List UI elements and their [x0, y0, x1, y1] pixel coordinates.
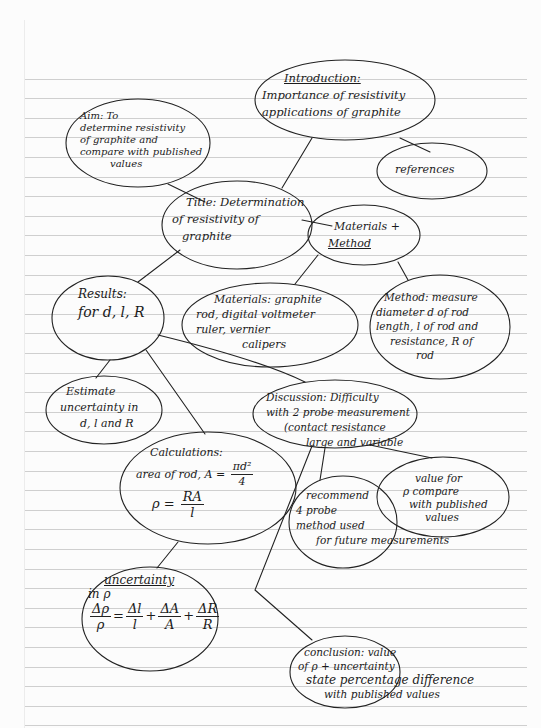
rho-formula: ρ = RA l	[136, 489, 296, 520]
term2-denominator: A	[158, 617, 181, 632]
discussion-line-3: (contact resistance	[266, 420, 436, 435]
conclusion-line-3: state percentage difference	[298, 673, 528, 687]
aim-node: Aim: To determine resistivity of graphit…	[80, 110, 205, 170]
title-line-1: Title: Determination	[172, 194, 307, 211]
conclusion-node: conclusion: value of ρ + uncertainty sta…	[298, 645, 528, 701]
term1-numerator: Δl	[126, 601, 144, 617]
method-node: Method: measure diameter d of rod length…	[376, 290, 506, 363]
area-numerator: πd²	[231, 460, 254, 475]
value-compare-node: value for ρ compare with published value…	[403, 472, 488, 524]
introduction-heading: Introduction:	[262, 70, 432, 87]
link-mm-method	[398, 262, 408, 280]
estimate-uncertainty-node: Estimate uncertainty in d, l and R	[60, 384, 138, 432]
materials-line-3: ruler, vernier	[196, 322, 346, 337]
recommend-line-4: for future measurements	[296, 533, 449, 548]
title-node: Title: Determination of resistivity of g…	[172, 194, 307, 245]
conclusion-line-1: conclusion: value	[298, 645, 528, 659]
link-results-calculations	[146, 350, 205, 434]
link-intro-references	[400, 138, 430, 152]
materials-method-line-1: Materials +	[328, 218, 400, 235]
discussion-line-1: Discussion: Difficulty	[266, 390, 436, 405]
method-line-1: Method: measure	[376, 290, 506, 305]
link-calc-uncertainty	[157, 542, 178, 568]
results-line-2: for d, l, R	[78, 303, 145, 321]
title-line-2: of resistivity of	[172, 211, 307, 228]
link-discussion-recommend	[320, 448, 325, 480]
rho-label: ρ =	[152, 496, 175, 511]
equals-sign: =	[113, 608, 124, 623]
area-formula: area of rod, A = πd² 4	[136, 460, 296, 489]
plus-sign-2: +	[183, 608, 194, 623]
discussion-node: Discussion: Difficulty with 2 probe meas…	[266, 390, 436, 450]
term3-fraction: ΔR R	[196, 601, 219, 632]
rho-denominator: l	[181, 505, 204, 520]
rho-numerator: RA	[181, 489, 204, 505]
introduction-node: Introduction: Importance of resistivity …	[262, 70, 432, 121]
estimate-line-3: d, l and R	[60, 416, 138, 432]
calculations-title: Calculations:	[136, 446, 296, 460]
rho-fraction: RA l	[181, 489, 204, 520]
introduction-line-2: Importance of resistivity	[262, 87, 432, 104]
term1-fraction: Δl l	[126, 601, 144, 632]
lhs-numerator: Δρ	[90, 601, 111, 617]
results-node: Results: for d, l, R	[78, 285, 145, 321]
conclusion-line-2: of ρ + uncertainty	[298, 659, 528, 673]
references-node: references	[395, 163, 455, 176]
link-intro-title	[282, 138, 312, 188]
area-fraction: πd² 4	[231, 460, 254, 489]
title-line-3: graphite	[172, 228, 307, 245]
aim-line-3: of graphite and	[80, 134, 205, 146]
area-label: area of rod, A =	[136, 468, 225, 481]
estimate-line-2: uncertainty in	[60, 400, 138, 416]
aim-line-1: Aim: To	[80, 110, 205, 122]
materials-node: Materials: graphite rod, digital voltmet…	[196, 292, 346, 352]
results-heading: Results:	[78, 285, 145, 303]
value-compare-line-3: with published	[403, 498, 488, 511]
references-label: references	[395, 163, 455, 176]
value-compare-line-1: value for	[403, 472, 488, 485]
notebook-page: Aim: To determine resistivity of graphit…	[0, 0, 541, 728]
discussion-line-2: with 2 probe measurement	[266, 405, 436, 420]
materials-line-1: Materials: graphite	[196, 292, 346, 307]
link-title-results	[138, 250, 180, 282]
aim-line-4: compare with published	[80, 146, 205, 158]
term3-numerator: ΔR	[196, 601, 219, 617]
uncertainty-formula: Δρ ρ = Δl l + ΔA A + ΔR R	[88, 601, 278, 632]
link-mm-materials	[295, 255, 318, 284]
calculations-node: Calculations: area of rod, A = πd² 4 ρ =…	[136, 446, 296, 520]
term2-numerator: ΔA	[158, 601, 181, 617]
aim-line-2: determine resistivity	[80, 122, 205, 134]
term3-denominator: R	[196, 617, 219, 632]
lhs-fraction: Δρ ρ	[90, 601, 111, 632]
materials-method-node: Materials + Method	[328, 218, 400, 252]
method-line-5: rod	[376, 348, 506, 363]
term1-denominator: l	[126, 617, 144, 632]
uncertainty-node: uncertainty in ρ Δρ ρ = Δl l + ΔA A + ΔR…	[88, 573, 278, 632]
term2-fraction: ΔA A	[158, 601, 181, 632]
materials-line-2: rod, digital voltmeter	[196, 307, 346, 322]
plus-sign-1: +	[145, 608, 156, 623]
value-compare-line-2: ρ compare	[403, 485, 488, 498]
introduction-line-3: applications of graphite	[262, 104, 432, 121]
materials-line-4: calipers	[196, 337, 346, 352]
area-denominator: 4	[231, 475, 254, 489]
conclusion-line-4: with published values	[298, 687, 528, 701]
uncertainty-title: uncertainty	[88, 573, 278, 587]
value-compare-line-4: values	[403, 511, 488, 524]
estimate-line-1: Estimate	[60, 384, 138, 400]
link-results-estimate	[96, 360, 110, 378]
method-line-2: diameter d of rod	[376, 305, 506, 320]
materials-method-line-2: Method	[328, 235, 400, 252]
method-line-3: length, l of rod and	[376, 319, 506, 334]
uncertainty-sub: in ρ	[88, 587, 278, 601]
method-line-4: resistance, R of	[376, 334, 506, 349]
aim-line-5: values	[80, 158, 205, 170]
lhs-denominator: ρ	[90, 617, 111, 632]
